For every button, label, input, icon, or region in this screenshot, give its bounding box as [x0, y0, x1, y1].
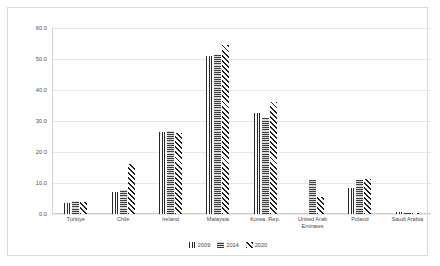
bar-group [384, 28, 431, 214]
bar[interactable] [364, 179, 371, 214]
bar[interactable] [396, 212, 403, 214]
legend-label: 2014 [226, 242, 238, 248]
bar-group [147, 28, 194, 214]
x-axis-category-label: Türkiye [52, 216, 99, 242]
x-axis-category-label: Ireland [147, 216, 194, 242]
bar[interactable] [214, 55, 221, 214]
bar[interactable] [72, 201, 79, 214]
y-axis-tick-label: 10.0 [36, 180, 47, 186]
bar-groups [52, 28, 431, 214]
legend-swatch [217, 242, 224, 248]
legend-item[interactable]: 2014 [217, 242, 238, 248]
plot-area: 60.050.040.030.020.010.00.0 [52, 28, 431, 214]
bar[interactable] [317, 197, 324, 214]
y-axis-tick-label: 50.0 [36, 56, 47, 62]
chart-figure: 60.050.040.030.020.010.00.0 TürkiyeChile… [0, 0, 440, 266]
bar[interactable] [128, 164, 135, 214]
bar-group [336, 28, 383, 214]
y-axis-tick-label: 0.0 [39, 211, 47, 217]
chart-frame: 60.050.040.030.020.010.00.0 TürkiyeChile… [7, 7, 428, 256]
y-axis-tick-label: 40.0 [36, 87, 47, 93]
bar[interactable] [412, 213, 419, 214]
bar[interactable] [404, 213, 411, 214]
x-axis-category-label: Poland [336, 216, 383, 242]
bar[interactable] [112, 192, 119, 214]
y-axis-tick-label: 60.0 [36, 25, 47, 31]
x-axis-category-label: Chile [99, 216, 146, 242]
legend-item[interactable]: 2020 [246, 242, 267, 248]
bar-group [52, 28, 99, 214]
gridline [52, 214, 431, 215]
bar[interactable] [167, 131, 174, 214]
y-axis-tick-label: 30.0 [36, 118, 47, 124]
x-axis-category-labels: TürkiyeChileIrelandMalaysiaKorea, Rep.Un… [52, 216, 431, 242]
x-axis-category-label: Saudi Arabia [384, 216, 431, 242]
bar[interactable] [175, 133, 182, 214]
bar[interactable] [348, 188, 355, 214]
bar[interactable] [222, 45, 229, 214]
bar-group [242, 28, 289, 214]
bar-group [99, 28, 146, 214]
legend-label: 2020 [255, 242, 267, 248]
bar[interactable] [159, 132, 166, 214]
x-axis-category-label: United Arab Emirates [289, 216, 336, 242]
bar-group [289, 28, 336, 214]
bar[interactable] [80, 202, 87, 214]
legend-item[interactable]: 2009 [189, 242, 210, 248]
legend-swatch [189, 242, 196, 248]
bar[interactable] [356, 180, 363, 214]
bar[interactable] [309, 180, 316, 214]
plot-inner [52, 28, 431, 214]
bar[interactable] [270, 102, 277, 214]
bar[interactable] [262, 118, 269, 214]
x-axis-category-label: Malaysia [194, 216, 241, 242]
bar[interactable] [64, 203, 71, 214]
bar[interactable] [120, 190, 127, 214]
y-axis-tick-label: 20.0 [36, 149, 47, 155]
bar[interactable] [206, 56, 213, 214]
bar-group [194, 28, 241, 214]
bar[interactable] [254, 113, 261, 214]
legend-label: 2009 [198, 242, 210, 248]
chart-legend: 200920142020 [8, 242, 440, 248]
legend-swatch [246, 242, 253, 248]
x-axis-category-label: Korea, Rep. [242, 216, 289, 242]
